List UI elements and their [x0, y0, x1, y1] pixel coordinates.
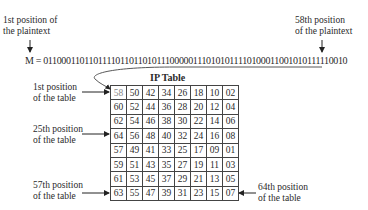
curved-arrow-icon: [94, 67, 322, 89]
arrows-overlay: [0, 0, 368, 210]
